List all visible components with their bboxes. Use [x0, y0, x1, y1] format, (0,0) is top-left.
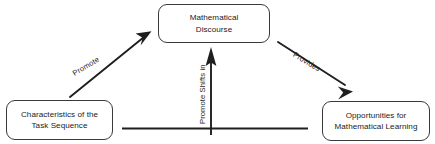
node-characteristics-task-sequence-label: Characteristics of the Task Sequence — [21, 109, 98, 132]
node-characteristics-task-sequence[interactable]: Characteristics of the Task Sequence — [6, 100, 113, 140]
edge-label-promote-shifts-in: Promote Shifts in — [198, 64, 207, 124]
node-opportunities-mathematical-learning-label: Opportunities for Mathematical Learning — [335, 110, 418, 133]
node-opportunities-mathematical-learning[interactable]: Opportunities for Mathematical Learning — [322, 101, 430, 141]
node-mathematical-discourse-label: Mathematical Discourse — [190, 12, 239, 35]
diagram-canvas: Mathematical Discourse Characteristics o… — [0, 0, 435, 144]
arrow-promote-shifts-in — [206, 47, 217, 135]
node-mathematical-discourse[interactable]: Mathematical Discourse — [158, 4, 270, 43]
